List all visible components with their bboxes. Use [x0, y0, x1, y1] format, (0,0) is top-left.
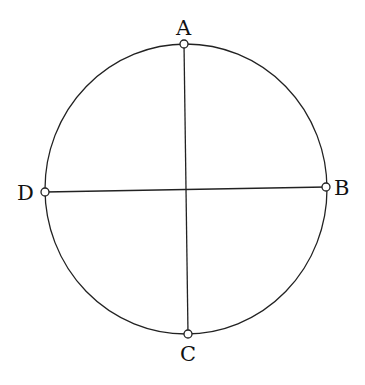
circle-diagram	[0, 0, 365, 385]
label-a: A	[176, 18, 191, 39]
label-c: C	[180, 344, 196, 365]
point-b	[322, 183, 330, 191]
point-c	[184, 330, 192, 338]
point-a	[180, 40, 188, 48]
point-d	[41, 188, 49, 196]
label-d: D	[17, 183, 34, 204]
label-b: B	[334, 178, 349, 199]
